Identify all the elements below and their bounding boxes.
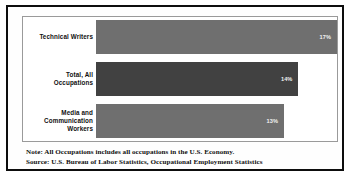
bar-track: 13% [96, 104, 337, 138]
bar-technical-writers[interactable]: 17% [96, 20, 337, 54]
bar-total-all-occupations[interactable]: 14% [96, 62, 298, 96]
bar-track: 14% [96, 62, 337, 96]
bar-value-label: 13% [266, 104, 278, 138]
bar-row: Media andCommunicationWorkers 13% [23, 104, 337, 138]
bar-category-label: Media andCommunicationWorkers [23, 104, 95, 138]
plot-area: Technical Writers 17% Total, AllOccupati… [22, 16, 338, 142]
bar-category-label: Total, AllOccupations [23, 62, 95, 96]
bar-row: Technical Writers 17% [23, 20, 337, 54]
footnote-note: Note: All Occupations includes all occup… [26, 147, 332, 157]
bar-media-communication-workers[interactable]: 13% [96, 104, 284, 138]
bar-value-label: 14% [281, 62, 293, 96]
chart-figure: Technical Writers 17% Total, AllOccupati… [6, 5, 344, 171]
bar-row: Total, AllOccupations 14% [23, 62, 337, 96]
bar-value-label: 17% [320, 20, 332, 54]
chart-footnotes: Note: All Occupations includes all occup… [26, 147, 332, 167]
bar-track: 17% [96, 20, 337, 54]
bar-category-label: Technical Writers [23, 20, 95, 54]
footnote-source: Source: U.S. Bureau of Labor Statistics,… [26, 157, 332, 167]
